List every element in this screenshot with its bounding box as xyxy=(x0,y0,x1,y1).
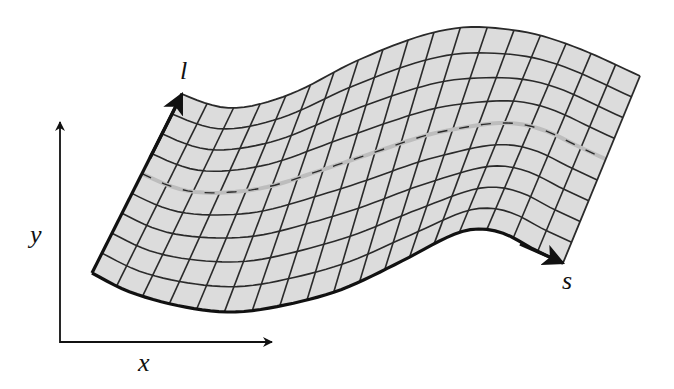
l-axis-label: l xyxy=(180,58,187,84)
s-axis-label: s xyxy=(562,268,572,294)
x-axis-label: x xyxy=(138,350,150,376)
y-axis-label: y xyxy=(30,222,42,248)
curvilinear-grid-figure xyxy=(0,0,674,389)
diagram-canvas: l s x y xyxy=(0,0,674,389)
